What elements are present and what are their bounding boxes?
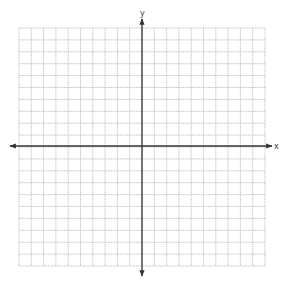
- x-axis-label: x: [274, 142, 279, 151]
- y-axis-label: y: [140, 9, 145, 18]
- coordinate-plane: x y: [0, 0, 292, 288]
